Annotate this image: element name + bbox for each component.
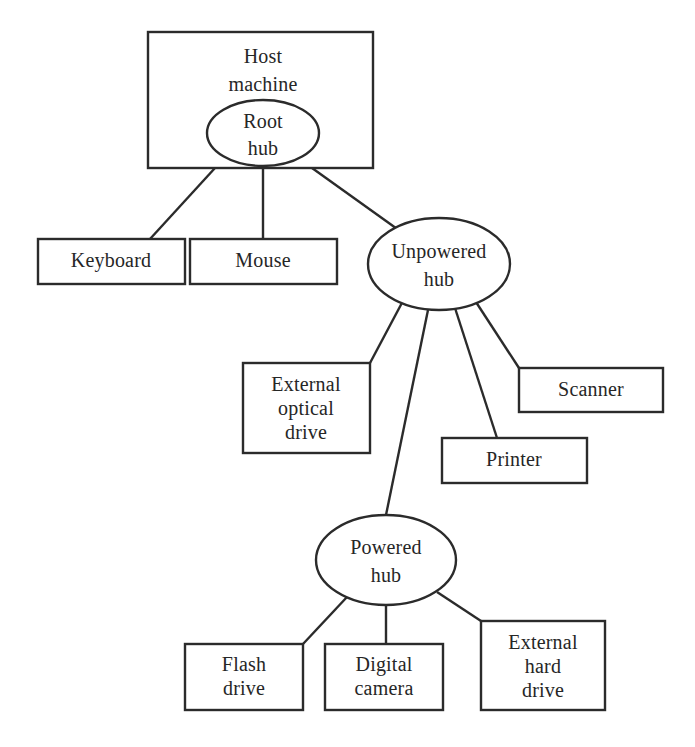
keyboard-label: Keyboard: [71, 249, 151, 272]
powered-hub-label-line2: hub: [371, 564, 402, 586]
flash-drive-label-line2: drive: [223, 677, 265, 699]
unpowered-hub-label-line2: hub: [424, 268, 455, 290]
powered-hub-ellipse[interactable]: [316, 515, 456, 605]
node-keyboard[interactable]: Keyboard: [38, 239, 185, 284]
edge-unpowered-hub-to-powered-hub: [386, 310, 428, 515]
node-digital-camera[interactable]: Digital camera: [325, 644, 443, 710]
unpowered-hub-label-line1: Unpowered: [391, 240, 486, 263]
root-hub-label-line2: hub: [248, 137, 279, 159]
powered-hub-label-line1: Powered: [350, 536, 421, 558]
external-optical-drive-label-line2: optical: [278, 397, 334, 420]
node-root-hub[interactable]: Root hub: [207, 100, 319, 166]
external-hard-drive-label-line1: External: [508, 631, 578, 653]
edge-unpowered-hub-to-external-optical-drive: [370, 299, 404, 363]
host-machine-label-line1: Host: [244, 45, 283, 67]
edge-host-machine-to-unpowered-hub: [312, 168, 400, 231]
flash-drive-label-line1: Flash: [222, 653, 266, 675]
node-mouse[interactable]: Mouse: [190, 239, 337, 284]
edge-host-machine-to-keyboard: [150, 168, 215, 239]
external-optical-drive-label-line3: drive: [285, 421, 327, 443]
diagram-canvas-container: Host machine Root hub Keyboard Mouse Unp…: [0, 0, 695, 747]
edge-powered-hub-to-external-hard-drive: [437, 592, 481, 621]
digital-camera-label-line1: Digital: [356, 653, 413, 676]
digital-camera-label-line2: camera: [355, 677, 414, 699]
printer-label: Printer: [486, 448, 542, 470]
external-optical-drive-label-line1: External: [271, 373, 341, 395]
node-unpowered-hub[interactable]: Unpowered hub: [368, 218, 510, 310]
edge-unpowered-hub-to-printer: [455, 308, 497, 438]
node-powered-hub[interactable]: Powered hub: [316, 515, 456, 605]
root-hub-label-line1: Root: [243, 110, 283, 132]
external-hard-drive-label-line2: hard: [525, 655, 561, 677]
node-printer[interactable]: Printer: [442, 438, 587, 483]
node-external-hard-drive[interactable]: External hard drive: [481, 621, 605, 710]
mouse-label: Mouse: [235, 249, 290, 271]
edge-unpowered-hub-to-scanner: [474, 299, 519, 368]
external-hard-drive-label-line3: drive: [522, 679, 564, 701]
host-machine-label-line2: machine: [228, 73, 297, 95]
usb-topology-diagram: Host machine Root hub Keyboard Mouse Unp…: [0, 0, 695, 747]
edge-powered-hub-to-flash-drive: [303, 597, 347, 644]
scanner-label: Scanner: [558, 378, 624, 400]
unpowered-hub-ellipse[interactable]: [368, 218, 510, 310]
node-flash-drive[interactable]: Flash drive: [185, 644, 303, 710]
node-external-optical-drive[interactable]: External optical drive: [243, 363, 370, 453]
node-scanner[interactable]: Scanner: [519, 368, 663, 412]
